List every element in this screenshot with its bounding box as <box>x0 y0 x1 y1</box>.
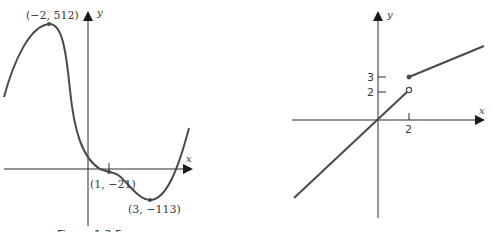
right-y-label: y <box>386 9 393 20</box>
right-x-label: x <box>479 105 485 116</box>
figure: y x (−2, 512) (1, −21) (3, −113) Figure … <box>0 0 493 232</box>
right-graph: y x 2 3 2 <box>292 9 485 218</box>
right-tick-y3-label: 3 <box>367 71 374 84</box>
figure-caption: Figure 1.2.5 <box>57 228 122 232</box>
left-point-min <box>148 198 152 202</box>
right-lower-segment <box>294 92 407 198</box>
left-label-max: (−2, 512) <box>26 9 79 22</box>
left-label-inflection: (1, −21) <box>90 178 136 191</box>
left-label-min: (3, −113) <box>128 203 181 216</box>
right-open-endpoint <box>406 87 411 92</box>
left-curve <box>4 24 189 200</box>
left-graph: y x (−2, 512) (1, −21) (3, −113) <box>4 7 192 226</box>
left-point-inflection <box>107 170 111 174</box>
left-point-max <box>47 22 51 26</box>
right-upper-segment <box>409 46 484 77</box>
left-x-label: x <box>186 153 192 164</box>
left-y-label: y <box>96 7 103 18</box>
right-closed-endpoint <box>407 75 412 80</box>
right-tick-x2-label: 2 <box>405 123 412 136</box>
right-tick-y2-label: 2 <box>367 86 374 99</box>
